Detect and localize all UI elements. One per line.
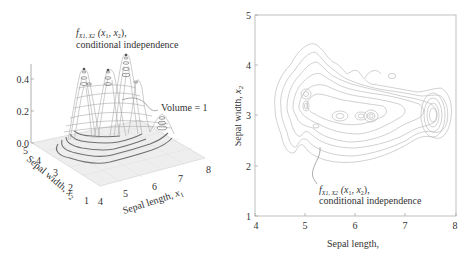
y-tick-labels: 5 4 3 2 1 bbox=[246, 10, 251, 222]
x-tick-4: 4 bbox=[254, 220, 259, 231]
y-tick-1: 1 bbox=[246, 211, 251, 222]
y-tick-5: 5 bbox=[246, 10, 251, 21]
contour-svg: 5 4 3 2 1 4 5 6 7 8 Sepal length, Sepal … bbox=[235, 0, 469, 256]
y-tick-3: 3 bbox=[246, 110, 251, 121]
length-tick-4: 4 bbox=[98, 196, 103, 207]
x-tick-6: 6 bbox=[353, 220, 358, 231]
left-annotation-subtitle: conditional independence bbox=[76, 39, 179, 50]
y-tick-4: 4 bbox=[246, 60, 251, 71]
surface-3d-plot: 0.4 0.2 0.0 5 4 3 2 1 4 5 6 7 8 Sepal wi… bbox=[0, 0, 235, 256]
x-tick-7: 7 bbox=[403, 220, 408, 231]
length-tick-5: 5 bbox=[123, 188, 128, 199]
z-tick-0: 0.4 bbox=[17, 74, 30, 85]
left-annotation-title: fX1, X2 (x1, x2), bbox=[76, 27, 127, 39]
peak-dots bbox=[83, 54, 128, 72]
z-tick-labels: 0.4 0.2 0.0 bbox=[17, 74, 30, 149]
width-tick-5: 5 bbox=[23, 145, 28, 156]
width-tick-1: 1 bbox=[84, 195, 89, 206]
x-tick-labels: 4 5 6 7 8 bbox=[254, 220, 458, 231]
y-tick-2: 2 bbox=[246, 161, 251, 172]
volume-label: Volume = 1 bbox=[161, 102, 208, 113]
length-tick-6: 6 bbox=[152, 181, 157, 192]
z-tick-1: 0.2 bbox=[17, 106, 30, 117]
z-axis-ticks bbox=[31, 79, 34, 143]
volume-leader-line bbox=[122, 98, 158, 111]
x-tick-5: 5 bbox=[303, 220, 308, 231]
right-annotation-subtitle: conditional independence bbox=[319, 195, 422, 206]
right-ylabel: Sepal width, x2 bbox=[235, 85, 245, 146]
length-tick-8: 8 bbox=[206, 164, 211, 175]
surface-3d-svg: 0.4 0.2 0.0 5 4 3 2 1 4 5 6 7 8 Sepal wi… bbox=[0, 0, 235, 256]
x-tick-8: 8 bbox=[453, 220, 458, 231]
length-tick-7: 7 bbox=[178, 173, 183, 184]
right-xlabel: Sepal length, bbox=[327, 238, 379, 249]
contour-plot: 5 4 3 2 1 4 5 6 7 8 Sepal length, Sepal … bbox=[235, 0, 469, 256]
